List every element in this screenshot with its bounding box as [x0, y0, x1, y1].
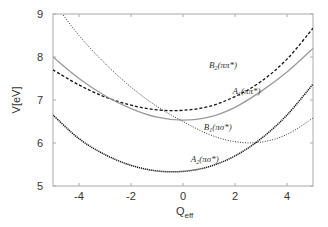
- x-tick-label: 0: [180, 190, 186, 202]
- x-tick-label: 2: [232, 190, 238, 202]
- plot-frame: [53, 14, 313, 186]
- curve-label-a2: A2(πσ*): [190, 154, 219, 165]
- y-tick-label: 7: [37, 94, 43, 106]
- chart-figure: -4-202456789 B2(ππ*)A1(ππ*)B1(πσ*)A2(πσ*…: [0, 0, 328, 227]
- curve-label-b2: B2(ππ*): [209, 60, 237, 71]
- y-tick-label: 8: [37, 51, 43, 63]
- x-axis-label-sub: eff: [185, 211, 195, 220]
- curve-a2: [53, 84, 313, 172]
- plot-curves: [53, 1, 313, 172]
- curve-b1: [53, 1, 313, 143]
- x-axis-label: Qeff: [176, 205, 194, 220]
- y-axis-label: V[eV]: [10, 87, 22, 114]
- y-tick-label: 9: [37, 8, 43, 20]
- curve-a1: [53, 48, 313, 120]
- y-tick-label: 6: [37, 137, 43, 149]
- x-tick-label: 4: [284, 190, 290, 202]
- x-tick-label: -2: [126, 190, 136, 202]
- x-tick-label: -4: [74, 190, 84, 202]
- plot-axes: -4-202456789: [37, 8, 313, 202]
- y-tick-label: 5: [37, 180, 43, 192]
- curve-label-b1: B1(πσ*): [204, 122, 232, 133]
- curve-labels: B2(ππ*)A1(ππ*)B1(πσ*)A2(πσ*): [190, 60, 261, 166]
- curve-b2: [53, 28, 313, 110]
- curve-label-a1: A1(ππ*): [231, 86, 260, 97]
